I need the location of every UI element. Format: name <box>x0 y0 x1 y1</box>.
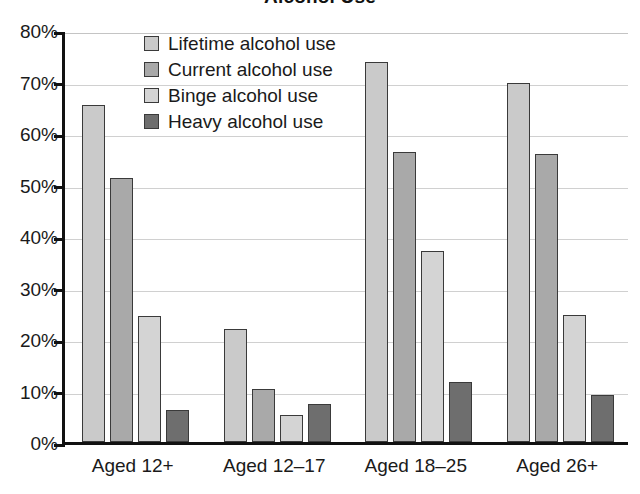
y-axis-label: 30% <box>4 279 58 301</box>
chart-legend: Lifetime alcohol useCurrent alcohol useB… <box>140 28 340 136</box>
y-axis-label: 10% <box>4 382 58 404</box>
x-axis-label-aged-18-25: Aged 18–25 <box>336 455 496 477</box>
bar-current-alcohol-use-aged-12-17 <box>252 389 275 442</box>
legend-swatch-icon <box>144 62 159 77</box>
legend-item: Current alcohol use <box>144 56 336 82</box>
bar-binge-alcohol-use-aged-12-17 <box>280 415 303 442</box>
legend-label: Lifetime alcohol use <box>168 34 336 53</box>
bar-heavy-alcohol-use-aged-18-25 <box>449 382 472 442</box>
y-axis-label: 80% <box>4 21 58 43</box>
alcohol-use-bar-chart: Alcohol Use 80%70%60%50%40%30%20%10%0% A… <box>0 0 640 494</box>
legend-label: Heavy alcohol use <box>168 112 323 131</box>
y-axis-tick <box>54 32 65 35</box>
bar-current-alcohol-use-aged-18-25 <box>393 152 416 442</box>
y-axis-label: 70% <box>4 73 58 95</box>
y-axis-tick <box>54 444 65 447</box>
bar-lifetime-alcohol-use-aged-12-17 <box>224 329 247 442</box>
y-axis-label: 20% <box>4 330 58 352</box>
bar-lifetime-alcohol-use-aged-18-25 <box>365 62 388 442</box>
x-axis-label-aged-12: Aged 12+ <box>53 455 213 477</box>
legend-swatch-icon <box>144 36 159 51</box>
y-axis-tick <box>54 341 65 344</box>
y-axis-label: 50% <box>4 176 58 198</box>
legend-item: Lifetime alcohol use <box>144 30 336 56</box>
legend-label: Binge alcohol use <box>168 86 318 105</box>
chart-title: Alcohol Use <box>0 0 640 8</box>
x-axis-label-aged-12-17: Aged 12–17 <box>194 455 354 477</box>
y-axis-label: 0% <box>4 433 58 455</box>
bar-lifetime-alcohol-use-aged-12 <box>82 105 105 442</box>
bar-current-alcohol-use-aged-26 <box>535 154 558 442</box>
bar-current-alcohol-use-aged-12 <box>110 178 133 442</box>
bar-lifetime-alcohol-use-aged-26 <box>507 83 530 442</box>
bar-heavy-alcohol-use-aged-26 <box>591 395 614 442</box>
legend-item: Binge alcohol use <box>144 82 336 108</box>
y-axis-label: 40% <box>4 227 58 249</box>
legend-item: Heavy alcohol use <box>144 108 336 134</box>
bar-binge-alcohol-use-aged-26 <box>563 315 586 442</box>
bar-binge-alcohol-use-aged-12 <box>138 316 161 442</box>
y-axis-label: 60% <box>4 124 58 146</box>
bar-heavy-alcohol-use-aged-12 <box>166 410 189 442</box>
x-axis-label-aged-26: Aged 26+ <box>477 455 637 477</box>
legend-swatch-icon <box>144 114 159 129</box>
y-axis-tick <box>54 83 65 86</box>
y-axis-tick <box>54 135 65 138</box>
y-axis-tick <box>54 289 65 292</box>
legend-swatch-icon <box>144 88 159 103</box>
bar-binge-alcohol-use-aged-18-25 <box>421 251 444 442</box>
y-axis-tick <box>54 186 65 189</box>
legend-label: Current alcohol use <box>168 60 333 79</box>
gridline <box>65 136 628 137</box>
y-axis-tick <box>54 238 65 241</box>
bar-heavy-alcohol-use-aged-12-17 <box>308 404 331 442</box>
y-axis-tick <box>54 392 65 395</box>
